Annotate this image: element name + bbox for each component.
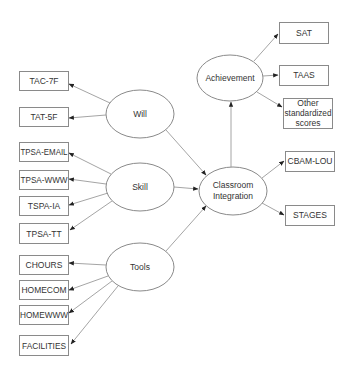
observed-node-taas: TAAS xyxy=(280,66,329,86)
edge-skill-tpsaemail xyxy=(69,153,111,174)
observed-node-other-standardized-scores: Other standardized scores xyxy=(284,98,333,129)
node-label-line2: standardized xyxy=(285,108,332,118)
observed-node-homewww: HOMEWWW xyxy=(20,306,69,325)
latent-node-will: Will xyxy=(106,90,174,138)
node-label: TAC-7F xyxy=(29,76,58,86)
observed-node-tac7f: TAC-7F xyxy=(20,72,69,91)
node-label-line1: Classroom xyxy=(213,180,254,190)
edge-achievement-taas xyxy=(263,75,278,76)
node-label: Achievement xyxy=(205,73,255,83)
edge-tools-classroom xyxy=(166,206,206,251)
observed-node-tpsa-email: TPSA-EMAIL xyxy=(20,143,69,162)
latent-node-skill: Skill xyxy=(106,163,174,211)
node-label: SAT xyxy=(296,28,312,38)
edge-tools-chours xyxy=(69,263,106,265)
observed-node-tat5f: TAT-5F xyxy=(20,108,69,127)
edge-skill-tpsawww xyxy=(69,179,106,184)
observed-node-cbam-lou: CBAM-LOU xyxy=(286,152,335,172)
node-label: Skill xyxy=(132,182,148,192)
edge-skill-classroom xyxy=(174,187,198,189)
edge-skill-tpsatt xyxy=(70,201,112,230)
node-label-line1: Other xyxy=(297,98,318,108)
path-diagram: Will Skill Tools Achievement Classroom I… xyxy=(0,0,351,372)
node-label: HOMEWWW xyxy=(20,310,68,320)
edge-skill-tspaia xyxy=(69,193,108,205)
edge-tools-facilities xyxy=(71,286,118,344)
observed-node-stages: STAGES xyxy=(286,206,335,226)
node-label: TPSA-WWW xyxy=(21,175,68,185)
latent-node-achievement: Achievement xyxy=(197,55,263,101)
node-label-line2: Integration xyxy=(213,191,253,201)
observed-node-homecom: HOMECOM xyxy=(20,281,69,300)
edge-achievement-other xyxy=(257,92,282,107)
node-label: Will xyxy=(133,109,147,119)
edge-will-tac7f xyxy=(69,84,110,103)
node-label: HOMECOM xyxy=(22,285,67,295)
node-label: TAT-5F xyxy=(30,112,57,122)
edge-will-classroom xyxy=(166,130,206,175)
observed-node-tspa-ia: TSPA-IA xyxy=(20,197,69,216)
edge-tools-homewww xyxy=(69,281,112,313)
node-label-line3: scores xyxy=(295,118,320,128)
observed-node-facilities: FACILITIES xyxy=(20,336,69,356)
latent-node-tools: Tools xyxy=(106,243,174,291)
observed-node-chours: CHOURS xyxy=(20,256,69,275)
observed-node-tpsa-tt: TPSA-TT xyxy=(20,224,69,244)
node-label: TSPA-IA xyxy=(28,201,61,211)
edge-classroom-stages xyxy=(262,203,284,215)
observed-node-sat: SAT xyxy=(280,23,329,44)
node-label: CBAM-LOU xyxy=(288,156,333,166)
node-label: STAGES xyxy=(293,210,327,220)
latent-node-classroom-integration: Classroom Integration xyxy=(199,167,267,215)
observed-node-tpsa-www: TPSA-WWW xyxy=(20,171,69,190)
node-label: FACILITIES xyxy=(22,341,66,351)
node-label: CHOURS xyxy=(26,260,63,270)
edge-classroom-cbamlou xyxy=(262,161,284,178)
node-label: TAAS xyxy=(293,70,315,80)
node-label: TPSA-TT xyxy=(26,229,61,239)
node-label: TPSA-EMAIL xyxy=(21,147,68,157)
edge-achievement-sat xyxy=(254,34,278,61)
edge-will-tat5f xyxy=(69,115,106,118)
node-label: Tools xyxy=(130,262,150,272)
